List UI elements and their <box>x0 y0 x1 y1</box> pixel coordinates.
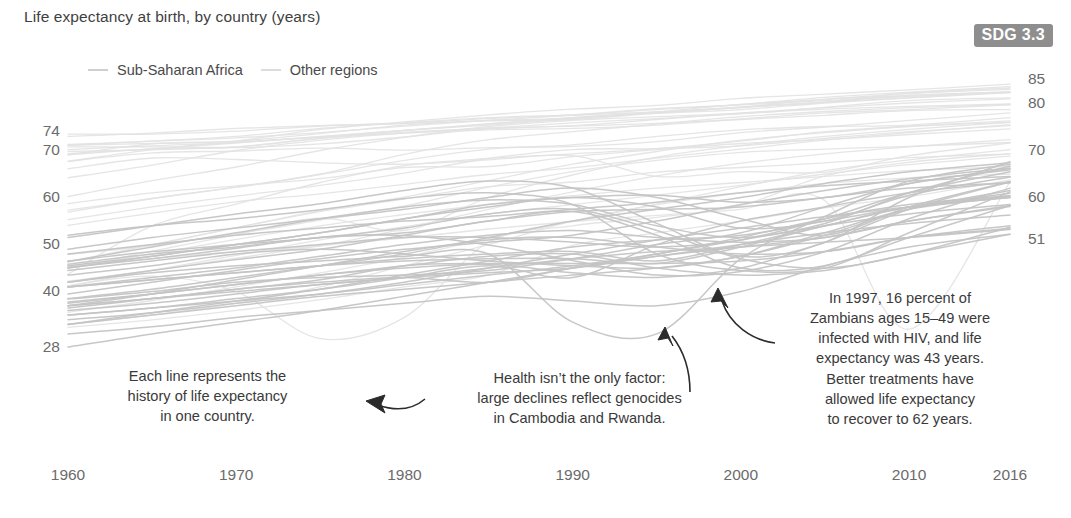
x-axis-tick: 1970 <box>219 466 253 484</box>
x-axis-tick: 2016 <box>993 466 1027 484</box>
y-axis-tick-left: 70 <box>26 141 60 159</box>
y-axis-tick-right: 85 <box>1028 70 1045 88</box>
y-axis-tick-left: 74 <box>26 122 60 140</box>
x-axis-tick: 2000 <box>724 466 758 484</box>
y-axis-tick-left: 40 <box>26 282 60 300</box>
x-axis-tick: 1960 <box>51 466 85 484</box>
x-axis-tick: 1990 <box>555 466 589 484</box>
arrow-head-icon <box>711 288 728 308</box>
arrow-head-icon <box>366 395 385 413</box>
y-axis-tick-right: 60 <box>1028 188 1045 206</box>
y-axis-tick-left: 60 <box>26 188 60 206</box>
y-axis-tick-left: 50 <box>26 235 60 253</box>
arrow-head-icon <box>658 327 673 346</box>
line-chart-plot <box>0 0 1071 518</box>
y-axis-tick-left: 28 <box>26 338 60 356</box>
annotation-zambia: In 1997, 16 percent of Zambians ages 15–… <box>780 288 1020 429</box>
y-axis-tick-right: 51 <box>1028 230 1045 248</box>
chart-figure: Life expectancy at birth, by country (ye… <box>0 0 1071 518</box>
y-axis-tick-right: 80 <box>1028 94 1045 112</box>
annotation-each-line: Each line represents the history of life… <box>75 366 340 426</box>
y-axis-tick-right: 70 <box>1028 141 1045 159</box>
x-axis-tick: 1980 <box>387 466 421 484</box>
x-axis-tick: 2010 <box>892 466 926 484</box>
annotation-genocides: Health isn’t the only factor: large decl… <box>437 368 722 428</box>
arrow-line <box>378 399 425 409</box>
arrow-line <box>722 301 775 343</box>
